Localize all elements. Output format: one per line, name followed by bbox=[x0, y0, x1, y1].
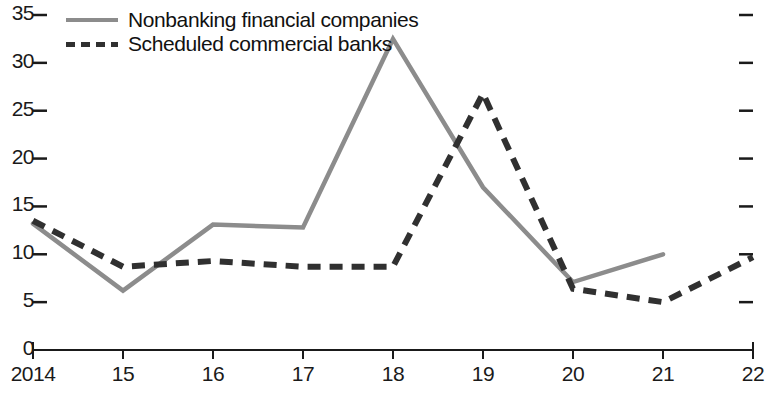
x-axis-label-2014: 2014 bbox=[0, 362, 68, 386]
series-line-nonbanking-financial-companies bbox=[33, 39, 663, 291]
y-axis-label-5: 5 bbox=[0, 288, 34, 312]
axis-group bbox=[33, 15, 753, 359]
legend-swatch-dashed-line-icon bbox=[66, 36, 118, 52]
legend-label-scheduled-commercial-banks: Scheduled commercial banks bbox=[128, 32, 392, 56]
line-chart: 05101520253035 20141516171819202122 Nonb… bbox=[0, 0, 770, 399]
legend-swatch-solid-line-icon bbox=[66, 12, 118, 28]
y-axis-label-10: 10 bbox=[0, 240, 34, 264]
legend-item-nonbanking-financial-companies: Nonbanking financial companies bbox=[66, 8, 418, 32]
x-axis-label-17: 17 bbox=[268, 362, 338, 386]
series-line-scheduled-commercial-banks bbox=[33, 93, 753, 302]
x-axis-label-19: 19 bbox=[448, 362, 518, 386]
series-group bbox=[33, 39, 753, 302]
y-axis-label-0: 0 bbox=[0, 336, 34, 360]
y-axis-label-30: 30 bbox=[0, 49, 34, 73]
y-axis-label-35: 35 bbox=[0, 1, 34, 25]
x-axis-label-18: 18 bbox=[358, 362, 428, 386]
y-axis-label-20: 20 bbox=[0, 145, 34, 169]
chart-plot-area bbox=[0, 0, 770, 399]
legend-label-nonbanking-financial-companies: Nonbanking financial companies bbox=[128, 8, 418, 32]
chart-legend: Nonbanking financial companies Scheduled… bbox=[66, 8, 418, 56]
x-axis-label-21: 21 bbox=[628, 362, 698, 386]
x-axis-label-15: 15 bbox=[88, 362, 158, 386]
legend-item-scheduled-commercial-banks: Scheduled commercial banks bbox=[66, 32, 418, 56]
x-axis-label-20: 20 bbox=[538, 362, 608, 386]
x-axis-label-22: 22 bbox=[718, 362, 770, 386]
y-axis-label-25: 25 bbox=[0, 97, 34, 121]
x-axis-label-16: 16 bbox=[178, 362, 248, 386]
y-axis-label-15: 15 bbox=[0, 192, 34, 216]
